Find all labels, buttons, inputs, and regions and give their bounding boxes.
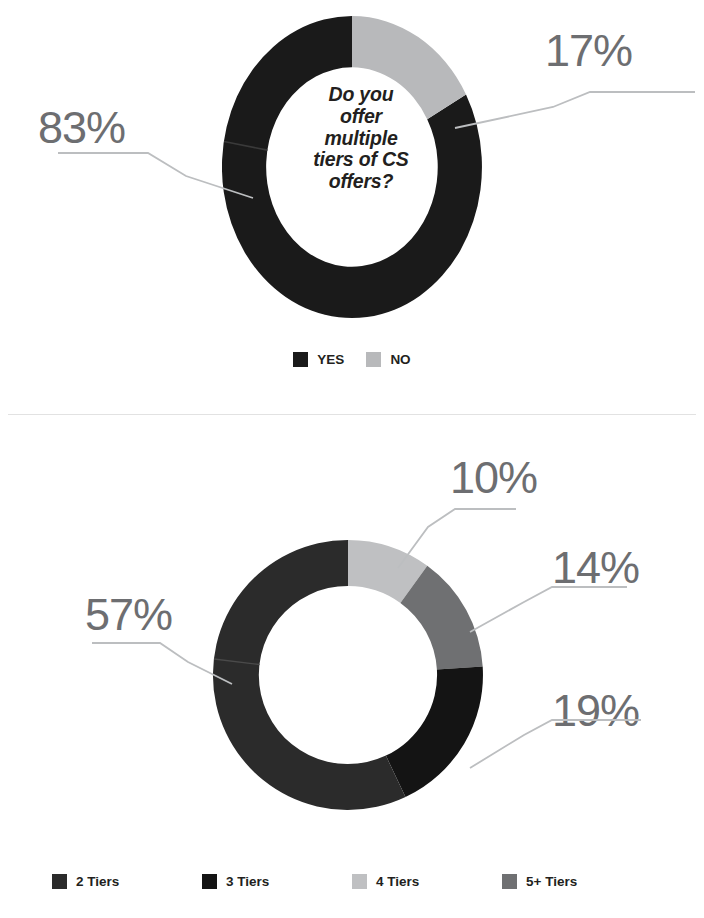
legend-label-4-tiers: 4 Tiers [376, 874, 419, 889]
pct-label-5plus-tiers: 14% [552, 545, 639, 590]
legend-label-2-tiers: 2 Tiers [76, 874, 119, 889]
legend-swatch-4-tiers-icon [352, 874, 367, 889]
legend-item-yes[interactable]: YES [293, 352, 344, 367]
legend-multiple-tiers: YES NO [0, 352, 704, 367]
chart-panel-how-many: How many? [0, 416, 704, 918]
chart-panel-multiple-tiers: Do you offer multiple tiers of CS offers… [0, 0, 704, 415]
legend-swatch-no-icon [366, 352, 381, 367]
legend-label-5plus-tiers: 5+ Tiers [526, 874, 577, 889]
legend-item-4-tiers[interactable]: 4 Tiers [352, 874, 502, 889]
legend-swatch-5plus-tiers-icon [502, 874, 517, 889]
legend-how-many: 2 Tiers 3 Tiers 4 Tiers 5+ Tiers [0, 874, 704, 889]
legend-swatch-3-tiers-icon [202, 874, 217, 889]
legend-label-yes: YES [317, 352, 344, 367]
legend-item-no[interactable]: NO [366, 352, 410, 367]
pct-label-3-tiers: 19% [552, 688, 639, 733]
section-divider [8, 414, 696, 415]
legend-item-5plus-tiers[interactable]: 5+ Tiers [502, 874, 652, 889]
legend-swatch-yes-icon [293, 352, 308, 367]
pct-label-2-tiers: 57% [85, 592, 172, 637]
pct-label-4-tiers: 10% [450, 455, 537, 500]
donut-center-label-multiple-tiers: Do you offer multiple tiers of CS offers… [283, 84, 439, 193]
legend-label-no: NO [390, 352, 410, 367]
pct-label-yes: 83% [38, 105, 125, 150]
donut-chart-how-many [198, 524, 498, 826]
legend-item-3-tiers[interactable]: 3 Tiers [202, 874, 352, 889]
donut-svg-how-many [198, 524, 498, 826]
pct-label-no: 17% [545, 28, 632, 73]
legend-label-3-tiers: 3 Tiers [226, 874, 269, 889]
legend-swatch-2-tiers-icon [52, 874, 67, 889]
donut-slice-3-tiers[interactable] [386, 667, 483, 798]
legend-item-2-tiers[interactable]: 2 Tiers [52, 874, 202, 889]
